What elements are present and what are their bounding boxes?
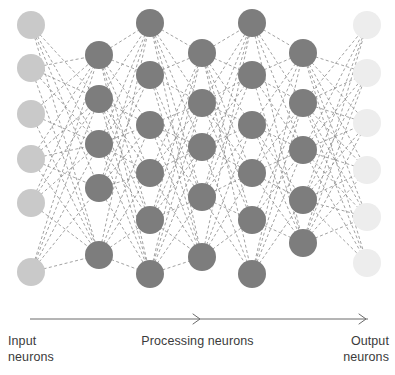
neuron-hidden-3-5 xyxy=(188,243,216,271)
connection-edge xyxy=(315,57,354,69)
neuron-hidden-5-1 xyxy=(289,39,317,67)
connection-edge xyxy=(311,35,359,93)
neuron-output-4 xyxy=(353,156,381,184)
neuron-hidden-3-2 xyxy=(188,89,216,117)
connection-edge xyxy=(309,161,360,251)
neuron-hidden-2-3 xyxy=(136,111,164,139)
connection-edge xyxy=(263,30,292,47)
connection-edge xyxy=(161,30,190,47)
connection-edge xyxy=(315,222,355,238)
neuron-output-1 xyxy=(353,11,381,39)
network-graph xyxy=(0,0,395,375)
connection-edge xyxy=(43,164,87,183)
connection-edge xyxy=(44,57,86,65)
neuron-hidden-2-5 xyxy=(136,206,164,234)
connection-edge xyxy=(162,58,190,70)
neuron-input-6 xyxy=(17,258,45,286)
processing-neurons-label: Processing neurons xyxy=(0,334,395,350)
neuron-hidden-5-5 xyxy=(289,229,317,257)
neuron-hidden-5-2 xyxy=(289,89,317,117)
output-neurons-label: Output neurons xyxy=(343,334,389,365)
neuron-input-2 xyxy=(17,54,45,82)
neuron-hidden-1-3 xyxy=(85,130,113,158)
neuron-input-4 xyxy=(17,145,45,173)
connection-edge xyxy=(209,34,245,92)
connection-edge xyxy=(259,34,296,92)
connection-edge xyxy=(161,228,192,250)
flow-arrow-group xyxy=(30,314,368,324)
neuron-hidden-5-3 xyxy=(289,136,317,164)
connection-edge xyxy=(312,209,357,254)
connection-edge xyxy=(38,66,92,148)
neuron-hidden-4-2 xyxy=(238,61,266,89)
neuron-hidden-3-4 xyxy=(188,183,216,211)
connection-edge xyxy=(213,30,241,47)
neuron-hidden-1-2 xyxy=(85,85,113,113)
neuron-hidden-4-3 xyxy=(238,111,266,139)
neuron-output-6 xyxy=(353,249,381,277)
neuron-hidden-3-1 xyxy=(188,39,216,67)
neuron-input-1 xyxy=(17,11,45,39)
neuron-hidden-1-1 xyxy=(85,41,113,69)
connection-edge xyxy=(309,114,360,205)
connection-edge xyxy=(212,228,241,250)
connection-edge xyxy=(37,36,92,132)
connection-edge xyxy=(111,177,137,185)
neuron-hidden-4-1 xyxy=(238,9,266,37)
neuron-output-5 xyxy=(353,203,381,231)
neuron-hidden-1-5 xyxy=(85,241,113,269)
connection-edge xyxy=(316,203,355,213)
neuron-hidden-5-4 xyxy=(289,186,317,214)
neuron-hidden-4-6 xyxy=(238,260,266,288)
connection-edge xyxy=(312,180,359,233)
connection-edge xyxy=(110,227,140,247)
neuron-output-2 xyxy=(353,59,381,87)
neuron-hidden-2-2 xyxy=(136,61,164,89)
connection-edge xyxy=(264,58,291,70)
neuron-hidden-2-4 xyxy=(136,159,164,187)
neuron-hidden-2-1 xyxy=(136,9,164,37)
connection-edge xyxy=(157,34,195,92)
neuron-hidden-3-3 xyxy=(188,133,216,161)
connection-edge xyxy=(43,119,87,139)
neuron-hidden-4-5 xyxy=(238,206,266,234)
neuron-hidden-2-6 xyxy=(136,260,164,288)
neuron-input-3 xyxy=(17,100,45,128)
neuron-input-5 xyxy=(17,189,45,217)
neuron-hidden-1-4 xyxy=(85,174,113,202)
connection-edge xyxy=(162,202,190,214)
connection-edge xyxy=(162,261,189,270)
neuron-hidden-4-4 xyxy=(238,159,266,187)
connection-edge xyxy=(37,126,94,244)
neuron-nodes xyxy=(17,9,381,288)
neuron-output-3 xyxy=(353,109,381,137)
connection-edge xyxy=(111,260,138,270)
connection-edge xyxy=(106,110,142,163)
connection-edge xyxy=(214,58,240,70)
connection-edge xyxy=(40,78,91,135)
neural-network-diagram: Input neurons Processing neurons Output … xyxy=(0,0,395,375)
connection-edge xyxy=(44,258,87,269)
